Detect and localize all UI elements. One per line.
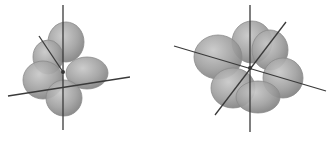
nucleus-point xyxy=(61,70,65,74)
orbital-diagram xyxy=(0,0,333,146)
nucleus-point xyxy=(248,66,252,70)
orbital-lobe xyxy=(236,81,280,113)
left-orbital-figure xyxy=(8,5,130,130)
right-orbital-figure xyxy=(174,5,326,132)
